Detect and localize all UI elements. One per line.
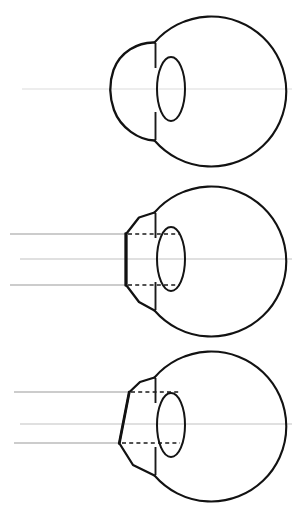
globe-outline: [155, 352, 287, 502]
applanation-contact-face: [119, 392, 129, 444]
eye-diagram-figure: [0, 0, 304, 508]
eye-svg-panel-2: [0, 170, 304, 340]
eye-panel-applanated-oblique: [0, 338, 304, 508]
eye-panel-applanated-symmetric: [0, 170, 304, 340]
convex-cornea-outline: [110, 42, 154, 140]
globe-outline: [155, 187, 287, 337]
lens-ellipse: [157, 393, 185, 457]
eye-panel-normal-cornea: [0, 0, 304, 170]
eye-svg-panel-3: [0, 338, 304, 508]
globe-outline: [155, 17, 287, 167]
eye-svg-panel-1: [0, 0, 304, 170]
flattened-cornea-outline: [127, 213, 155, 311]
